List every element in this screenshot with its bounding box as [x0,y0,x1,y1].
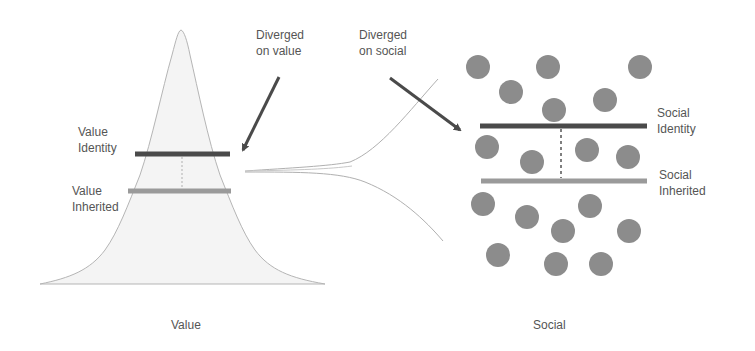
agent-circle [544,252,568,276]
value-inherited-label: Value Inherited [72,183,119,215]
diverging-curve-lower [245,172,443,241]
diverged-social-arrow [390,78,460,130]
social-identity-label: Social Identity [657,105,696,137]
agent-circle [499,80,523,104]
value-panel-caption: Value [171,317,201,333]
social-inherited-label: Social Inherited [659,167,706,199]
agent-circle [475,135,499,159]
agent-circle [515,205,539,229]
agent-circle [578,194,602,218]
agent-circle [589,252,613,276]
agent-circle [542,98,566,122]
value-identity-label: Value Identity [78,124,117,156]
diverged-on-social-label: Diverged on social [359,27,407,59]
agent-circle [593,88,617,112]
agent-circle [575,138,599,162]
diverged-on-value-label: Diverged on value [256,27,304,59]
agent-circle [551,219,575,243]
social-agents [466,55,652,276]
agent-circle [471,192,495,216]
agent-circle [617,219,641,243]
agent-circle [536,55,560,79]
agent-circle [486,243,510,267]
agent-circle [466,55,490,79]
agent-circle [520,150,544,174]
agent-circle [628,55,652,79]
diverged-value-arrow [243,77,279,150]
diverging-curve-inner [248,166,352,171]
agent-circle [616,145,640,169]
social-panel-caption: Social [533,317,566,333]
